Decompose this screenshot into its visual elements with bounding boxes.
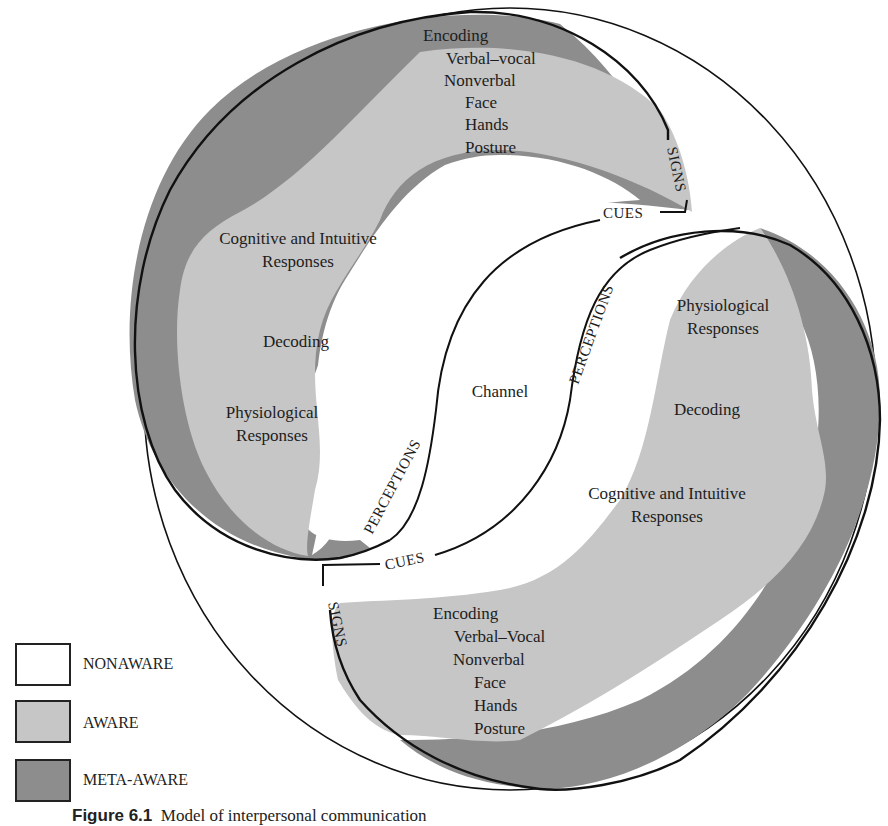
cues-top-label: CUES xyxy=(603,205,643,221)
lr-decoding: Decoding xyxy=(674,399,740,420)
cues-bottom-connector xyxy=(323,564,380,586)
lr-physiological-line-1: Physiological xyxy=(677,295,770,316)
lr-physiological-line-2: Responses xyxy=(687,318,759,339)
legend-swatch-aware xyxy=(15,700,71,743)
perceptions-left-label: PERCEPTIONS xyxy=(361,436,424,536)
ul-encoding-line-2: Nonverbal xyxy=(444,70,516,91)
perceptions-right-label: PERCEPTIONS xyxy=(566,282,617,386)
ul-encoding-line-4: Hands xyxy=(465,114,508,135)
ul-encoding-title: Encoding xyxy=(423,25,488,46)
lr-encoding-line-5: Posture xyxy=(474,718,525,739)
ul-cognitive-line-1: Cognitive and Intuitive xyxy=(219,228,377,249)
legend-label-aware: AWARE xyxy=(83,714,139,732)
caption-number: Figure 6.1 xyxy=(72,806,152,825)
lr-encoding-line-4: Hands xyxy=(474,695,517,716)
legend-swatch-meta-aware xyxy=(15,759,71,802)
lr-encoding-line-3: Face xyxy=(474,672,506,693)
ul-cognitive-line-2: Responses xyxy=(262,251,334,272)
ul-encoding-line-3: Face xyxy=(465,92,497,113)
legend-label-meta-aware: META-AWARE xyxy=(83,771,188,789)
ul-physiological-line-2: Responses xyxy=(236,425,308,446)
figure-caption: Figure 6.1 Model of interpersonal commun… xyxy=(72,806,427,826)
lr-encoding-line-1: Verbal–Vocal xyxy=(454,626,545,647)
lr-encoding-title: Encoding xyxy=(433,603,498,624)
caption-text: Model of interpersonal communication xyxy=(161,806,427,825)
ul-physiological-line-1: Physiological xyxy=(226,402,319,423)
lr-encoding-line-2: Nonverbal xyxy=(453,649,525,670)
lr-cognitive-line-1: Cognitive and Intuitive xyxy=(588,483,746,504)
legend-label-nonaware: NONAWARE xyxy=(83,655,173,673)
lr-cognitive-line-2: Responses xyxy=(631,506,703,527)
cues-bottom-label: CUES xyxy=(383,549,426,573)
ul-encoding-line-1: Verbal–vocal xyxy=(446,48,536,69)
ul-decoding: Decoding xyxy=(263,331,329,352)
channel-label: Channel xyxy=(472,381,529,402)
ul-encoding-line-5: Posture xyxy=(465,137,516,158)
legend-swatch-nonaware xyxy=(15,643,71,686)
